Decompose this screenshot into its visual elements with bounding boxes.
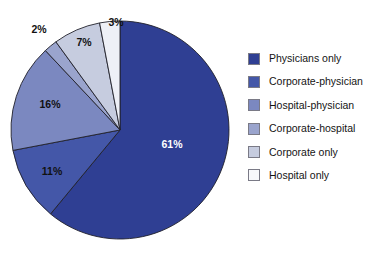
legend-item-label: Corporate-hospital — [269, 122, 355, 135]
pie-slice-value-label: 61% — [161, 138, 183, 150]
legend-item[interactable]: Corporate-physician — [248, 75, 379, 88]
legend-item-label: Hospital-physician — [269, 99, 354, 112]
legend-swatch-icon — [248, 53, 260, 65]
pie-slices-group — [11, 21, 229, 239]
legend-swatch-icon — [248, 123, 260, 135]
pie-slice-value-label: 2% — [31, 23, 47, 35]
legend-swatch-icon — [248, 146, 260, 158]
pie-slice-value-label: 11% — [42, 165, 63, 177]
pie-chart-figure: 61%11%16%2%7%3% Physicians onlyCorporate… — [0, 0, 379, 255]
legend-item[interactable]: Hospital-physician — [248, 99, 379, 112]
legend-item-label: Physicians only — [269, 52, 341, 65]
legend-item-label: Hospital only — [269, 169, 329, 182]
legend-swatch-icon — [248, 99, 260, 111]
legend-item-label: Corporate-physician — [269, 75, 363, 88]
legend-item[interactable]: Physicians only — [248, 52, 379, 65]
legend-item[interactable]: Corporate-hospital — [248, 122, 379, 135]
pie-slice-value-label: 7% — [76, 36, 92, 48]
legend-item-label: Corporate only — [269, 146, 338, 159]
legend-item[interactable]: Hospital only — [248, 169, 379, 182]
pie-slice-value-label: 16% — [39, 98, 61, 110]
legend-swatch-icon — [248, 76, 260, 88]
legend-swatch-icon — [248, 169, 260, 181]
pie-slice-value-label: 3% — [108, 16, 124, 28]
legend-item[interactable]: Corporate only — [248, 146, 379, 159]
chart-legend: Physicians onlyCorporate-physicianHospit… — [248, 52, 379, 182]
